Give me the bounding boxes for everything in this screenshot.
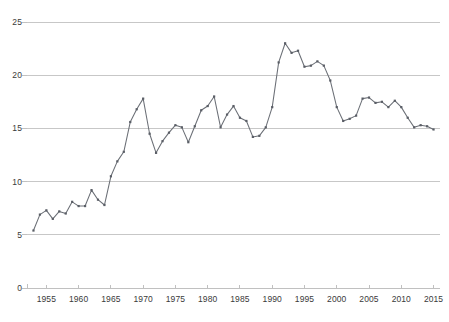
data-point-marker xyxy=(65,212,67,214)
data-point-marker xyxy=(361,98,363,100)
y-axis-tick-label: 0 xyxy=(0,283,22,293)
data-point-marker xyxy=(316,60,318,62)
data-point-marker xyxy=(245,120,247,122)
data-point-marker xyxy=(400,106,402,108)
data-point-marker xyxy=(123,151,125,153)
data-point-marker xyxy=(45,209,47,211)
y-axis-tick-label: 10 xyxy=(0,177,22,187)
data-point-marker xyxy=(252,136,254,138)
series-line xyxy=(33,43,433,230)
data-point-marker xyxy=(349,118,351,120)
data-point-marker xyxy=(78,205,80,207)
data-point-marker xyxy=(278,61,280,63)
x-axis xyxy=(27,284,434,288)
data-point-marker xyxy=(129,121,131,123)
data-point-marker xyxy=(303,66,305,68)
data-point-marker xyxy=(219,126,221,128)
data-point-marker xyxy=(116,160,118,162)
data-point-marker xyxy=(110,175,112,177)
x-axis-tick-label: 2000 xyxy=(320,294,354,304)
data-series-line xyxy=(33,43,433,230)
data-point-marker xyxy=(394,100,396,102)
data-point-marker xyxy=(84,205,86,207)
data-point-marker xyxy=(420,124,422,126)
data-point-marker xyxy=(368,96,370,98)
data-point-marker xyxy=(149,133,151,135)
data-point-marker xyxy=(407,117,409,119)
data-point-marker xyxy=(58,210,60,212)
y-axis-tick-label: 25 xyxy=(0,17,22,27)
gridlines xyxy=(27,22,440,288)
y-axis-tick-label: 5 xyxy=(0,230,22,240)
x-axis-tick-label: 2010 xyxy=(384,294,418,304)
data-point-marker xyxy=(168,132,170,134)
data-point-marker xyxy=(355,115,357,117)
data-point-marker xyxy=(52,218,54,220)
data-point-marker xyxy=(284,42,286,44)
line-chart: 0510152025 19551960196519701975198019851… xyxy=(0,0,449,322)
data-point-marker xyxy=(181,126,183,128)
x-axis-tick-label: 1965 xyxy=(94,294,128,304)
data-point-marker xyxy=(265,126,267,128)
data-point-marker xyxy=(336,106,338,108)
data-point-marker xyxy=(97,199,99,201)
data-point-marker xyxy=(32,229,34,231)
x-axis-tick-label: 2015 xyxy=(417,294,449,304)
x-axis-tick-label: 1990 xyxy=(255,294,289,304)
data-point-marker xyxy=(374,102,376,104)
data-point-marker xyxy=(239,117,241,119)
data-point-marker xyxy=(226,113,228,115)
data-point-marker xyxy=(232,105,234,107)
x-axis-tick-label: 1955 xyxy=(29,294,63,304)
data-point-marker xyxy=(187,141,189,143)
y-tick-marks xyxy=(22,22,27,288)
x-axis-tick-label: 1960 xyxy=(62,294,96,304)
data-point-marker xyxy=(310,65,312,67)
data-point-marker xyxy=(155,152,157,154)
data-point-marker xyxy=(200,109,202,111)
chart-plot-area xyxy=(0,0,449,322)
x-axis-tick-label: 1995 xyxy=(287,294,321,304)
data-point-marker xyxy=(39,213,41,215)
data-point-marker xyxy=(161,140,163,142)
y-axis-tick-label: 20 xyxy=(0,70,22,80)
y-axis-tick-label: 15 xyxy=(0,123,22,133)
data-point-marker xyxy=(381,101,383,103)
data-point-marker xyxy=(136,108,138,110)
data-point-marker xyxy=(142,98,144,100)
data-point-marker xyxy=(194,125,196,127)
data-point-markers xyxy=(32,42,434,231)
data-point-marker xyxy=(413,126,415,128)
data-point-marker xyxy=(103,204,105,206)
x-axis-tick-label: 1985 xyxy=(223,294,257,304)
data-point-marker xyxy=(387,106,389,108)
x-axis-tick-label: 1970 xyxy=(126,294,160,304)
data-point-marker xyxy=(90,189,92,191)
data-point-marker xyxy=(323,65,325,67)
data-point-marker xyxy=(342,120,344,122)
x-axis-tick-label: 2005 xyxy=(352,294,386,304)
x-axis-tick-label: 1980 xyxy=(191,294,225,304)
data-point-marker xyxy=(174,124,176,126)
data-point-marker xyxy=(426,125,428,127)
data-point-marker xyxy=(271,106,273,108)
data-point-marker xyxy=(297,50,299,52)
data-point-marker xyxy=(207,105,209,107)
data-point-marker xyxy=(213,95,215,97)
data-point-marker xyxy=(71,201,73,203)
x-axis-tick-label: 1975 xyxy=(158,294,192,304)
data-point-marker xyxy=(258,135,260,137)
data-point-marker xyxy=(329,79,331,81)
data-point-marker xyxy=(290,52,292,54)
data-point-marker xyxy=(432,128,434,130)
